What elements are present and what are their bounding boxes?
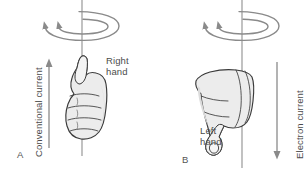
- panel-b-electron-current-label: Electron current: [295, 90, 306, 159]
- panel-a-right-hand-label-line1: Right: [106, 55, 129, 66]
- panel-b-left-hand-label-line2: hand: [200, 136, 222, 147]
- panel-b-left-hand-label-line1: Left: [200, 125, 216, 136]
- panel-a-right-hand-illustration: [66, 56, 107, 139]
- cropped-caption-fragment: [4, 172, 108, 177]
- panel-a-group: [45, 0, 119, 156]
- figure-canvas: [0, 0, 308, 179]
- panel-b-left-hand-label: Lefthand: [200, 126, 222, 147]
- panel-a-right-hand-label: Righthand: [106, 56, 129, 77]
- physics-figure-hand-rules: Conventional current Righthand A Electro…: [0, 0, 308, 179]
- panel-a-right-hand-label-line2: hand: [106, 66, 128, 77]
- panel-a-conventional-current-label: Conventional current: [34, 67, 45, 157]
- panel-a-letter-label: A: [17, 150, 23, 161]
- panel-b-letter-label: B: [182, 155, 188, 166]
